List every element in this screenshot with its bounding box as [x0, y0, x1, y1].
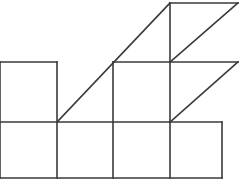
cell-face-bottom-4 — [170, 122, 222, 178]
cell-face-bottom-1 — [0, 122, 57, 178]
cell-face-middle-3 — [113, 62, 170, 122]
figure-container — [0, 0, 241, 188]
cell-face-middle-1 — [0, 62, 57, 122]
cell-face-bottom-3 — [113, 122, 170, 178]
cell-face-bottom-2 — [57, 122, 113, 178]
geometric-figure — [0, 0, 241, 188]
